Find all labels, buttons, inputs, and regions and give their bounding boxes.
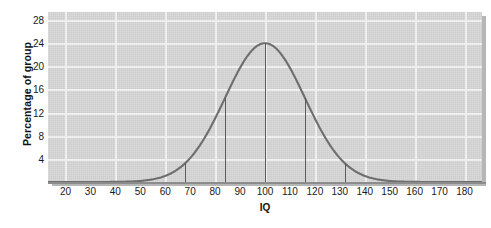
- y-axis-tick-labels: 481216202428: [20, 12, 44, 182]
- y-tick-label: 16: [22, 84, 44, 95]
- y-tick-label: 8: [22, 130, 44, 141]
- x-axis-line: [48, 182, 486, 184]
- plot-area: [48, 12, 482, 182]
- iq-distribution-chart: Percentage of group 481216202428 2030405…: [0, 0, 491, 228]
- plot-canvas: [48, 12, 482, 182]
- sd-marker-line: [305, 98, 306, 182]
- y-tick-label: 20: [22, 61, 44, 72]
- y-tick-label: 24: [22, 38, 44, 49]
- x-axis-tick-labels: 2030405060708090100110120130140150160170…: [48, 186, 482, 200]
- sd-marker-line: [265, 43, 266, 182]
- x-tick-label: 180: [450, 186, 480, 197]
- sd-marker-line: [185, 163, 186, 182]
- y-tick-label: 28: [22, 15, 44, 26]
- sd-marker-line: [345, 163, 346, 182]
- y-tick-label: 12: [22, 107, 44, 118]
- x-axis-title: IQ: [48, 202, 482, 213]
- sd-marker-line: [225, 98, 226, 182]
- y-tick-label: 4: [22, 153, 44, 164]
